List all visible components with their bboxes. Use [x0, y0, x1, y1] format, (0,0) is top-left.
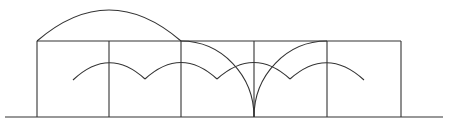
- small-arcs: [73, 63, 364, 81]
- arch-diagram: [0, 0, 449, 126]
- big-arc: [37, 10, 181, 41]
